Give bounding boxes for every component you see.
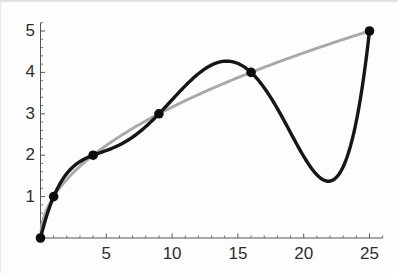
y-tick-label: 4: [26, 62, 35, 81]
y-tick-label: 3: [26, 104, 35, 123]
x-tick-label: 20: [294, 244, 313, 263]
data-point: [365, 26, 375, 36]
x-tick-label: 10: [163, 244, 182, 263]
y-tick-label: 5: [26, 21, 35, 40]
x-tick-label: 25: [360, 244, 379, 263]
y-tick-label: 1: [26, 187, 35, 206]
interpolation-vs-sqrt-chart: 51015202512345: [0, 0, 398, 273]
curve-interpolating-polynomial: [41, 31, 370, 238]
y-tick-label: 2: [26, 145, 35, 164]
scanned-figure-page: 51015202512345: [0, 0, 398, 273]
curve-sqrt: [41, 31, 370, 238]
data-point: [49, 192, 59, 202]
x-tick-label: 5: [102, 244, 111, 263]
x-tick-label: 15: [228, 244, 247, 263]
data-point: [246, 68, 256, 78]
data-point: [36, 233, 46, 243]
data-point: [154, 109, 164, 119]
data-point: [88, 150, 98, 160]
